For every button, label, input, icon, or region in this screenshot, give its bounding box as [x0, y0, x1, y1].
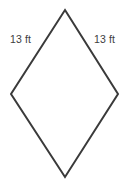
rhombus-shape: [0, 0, 128, 195]
side-length-label-left: 13 ft: [10, 34, 31, 45]
geometry-figure: 13 ft 13 ft: [0, 0, 128, 195]
side-length-label-right: 13 ft: [94, 34, 115, 45]
